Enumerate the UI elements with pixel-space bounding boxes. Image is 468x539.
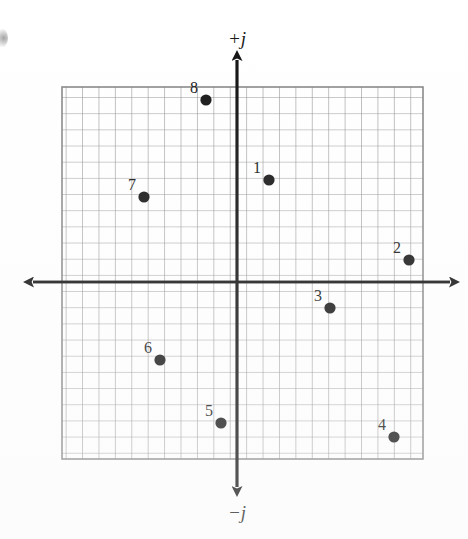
- point-marker: [215, 417, 226, 428]
- point-marker: [200, 94, 211, 105]
- point-label: 8: [190, 79, 198, 96]
- point-label: 6: [144, 339, 152, 356]
- point-label: 4: [378, 416, 386, 433]
- point-label: 3: [314, 287, 322, 304]
- point-label: 5: [205, 402, 213, 419]
- point-marker: [388, 431, 399, 442]
- point-label: 7: [128, 176, 136, 193]
- point-marker: [324, 302, 335, 313]
- point-label: 1: [253, 159, 261, 176]
- point-marker: [263, 174, 274, 185]
- grid-group: [62, 87, 423, 459]
- positive-imaginary-axis-label: +j: [228, 28, 246, 49]
- point-marker: [154, 354, 165, 365]
- point-label: 2: [393, 239, 401, 256]
- point-marker: [403, 254, 414, 265]
- point-marker: [138, 191, 149, 202]
- complex-plane-svg: +j −j 12345678: [0, 0, 468, 539]
- grid-fill: [62, 87, 423, 459]
- negative-imaginary-axis-label: −j: [228, 502, 246, 523]
- figure-canvas: +j −j 12345678: [0, 0, 468, 539]
